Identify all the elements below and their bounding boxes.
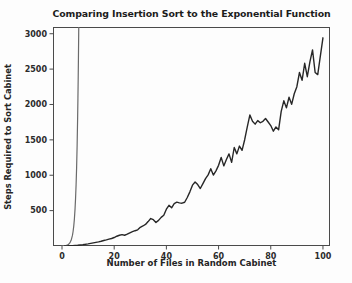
series-line-exponential-function bbox=[62, 5, 79, 246]
x-axis-label: Number of Files in Random Cabinet bbox=[53, 257, 330, 269]
y-tick-label: 2000 bbox=[25, 100, 48, 109]
y-tick-label: 2500 bbox=[25, 65, 48, 74]
series-line-insertion-sort bbox=[65, 38, 323, 246]
y-tick-label: 1500 bbox=[25, 136, 48, 145]
y-tick-label: 3000 bbox=[25, 30, 48, 39]
plot-spines bbox=[54, 28, 330, 246]
x-axis-label-text: Number of Files in Random Cabinet bbox=[107, 258, 277, 268]
chart-figure: Comparing Insertion Sort to the Exponent… bbox=[0, 0, 352, 283]
y-tick-label: 500 bbox=[30, 206, 47, 215]
y-tick-label: 1000 bbox=[25, 171, 48, 180]
plot-area: 02040608010050010001500200025003000 bbox=[0, 0, 352, 283]
